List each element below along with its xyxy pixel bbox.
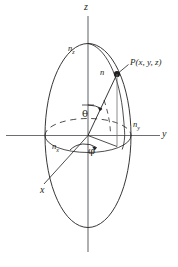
figure-canvas: [0, 0, 178, 267]
nx-index-label: nx: [52, 142, 59, 153]
index-ellipsoid-figure: z y x nz ny nx n P(x, y, z) θ φ: [0, 0, 178, 267]
x-axis-label: x: [40, 185, 44, 195]
nz-index-subscript: z: [72, 49, 74, 55]
nz-index-label: nz: [68, 44, 75, 55]
z-axis-label: z: [84, 2, 88, 12]
normal-vector-group: [88, 71, 120, 136]
axis-group: [6, 16, 160, 252]
normal-vector-label: n: [100, 68, 104, 77]
nx-index-subscript: x: [56, 147, 59, 153]
ny-index-label: ny: [133, 120, 140, 131]
meridian-arc-lower: [122, 137, 124, 150]
ny-index-subscript: y: [137, 125, 140, 131]
meridian-arc-dashed-hint: [104, 100, 111, 133]
point-p-label: P(x, y, z): [130, 58, 162, 67]
theta-angle-label: θ: [82, 109, 88, 119]
phi-angle-label: φ: [88, 146, 95, 156]
y-axis-label: y: [162, 129, 166, 139]
x-axis-line: [44, 136, 88, 185]
